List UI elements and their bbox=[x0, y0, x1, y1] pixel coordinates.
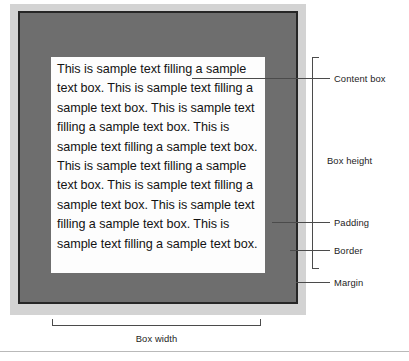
sample-text: This is sample text filling a sample tex… bbox=[57, 60, 261, 254]
box-height-label: Box height bbox=[327, 155, 372, 166]
border-label: Border bbox=[334, 245, 363, 256]
border-leader-line bbox=[290, 250, 330, 251]
padding-label: Padding bbox=[334, 217, 369, 228]
box-height-bracket bbox=[312, 57, 319, 269]
content-box-leader-line bbox=[192, 78, 330, 79]
margin-label: Margin bbox=[334, 277, 363, 288]
box-width-label: Box width bbox=[52, 333, 261, 344]
footer-divider bbox=[0, 351, 409, 352]
content-box-region: This is sample text filling a sample tex… bbox=[51, 57, 265, 273]
box-width-bracket bbox=[52, 319, 261, 326]
padding-leader-line bbox=[272, 222, 330, 223]
margin-leader-line bbox=[296, 282, 330, 283]
content-box-label: Content box bbox=[334, 73, 386, 84]
box-model-diagram: This is sample text filling a sample tex… bbox=[0, 0, 409, 361]
